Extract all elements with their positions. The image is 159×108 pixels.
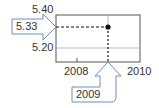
x-tick-label-2008: 2008 xyxy=(64,66,88,77)
callout-label-y: 5.33 xyxy=(16,21,37,32)
plot-frame xyxy=(56,15,140,62)
y-tick-label-top: 5.40 xyxy=(32,4,53,15)
callout-label-x: 2009 xyxy=(76,89,100,100)
data-point xyxy=(105,24,110,29)
x-tick-label-2010: 2010 xyxy=(127,66,151,77)
y-tick-label-mid: 5.20 xyxy=(32,42,53,53)
chart: 5.40 5.20 2008 2010 5.33 2009 xyxy=(0,0,159,108)
